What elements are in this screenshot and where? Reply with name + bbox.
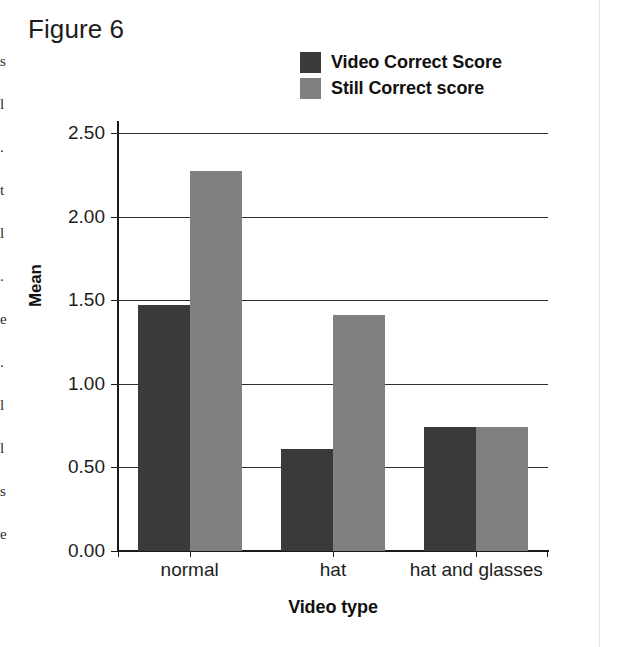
square-swatch-icon: [300, 52, 321, 73]
y-axis-tick-mark: [111, 217, 118, 218]
y-axis-tick-mark: [111, 384, 118, 385]
y-axis-tick-label: 0.00: [68, 540, 105, 562]
square-swatch-icon: [300, 78, 321, 99]
y-axis-tick-label: 1.00: [68, 373, 105, 395]
legend-item-video-correct-score: Video Correct Score: [300, 52, 502, 73]
x-axis-title: Video type: [118, 597, 548, 618]
bar: [138, 305, 190, 551]
y-axis-tick-label: 2.00: [68, 206, 105, 228]
y-axis-tick-mark: [111, 133, 118, 134]
scan-artifact-right-gutter: [599, 0, 600, 647]
y-axis-tick-label: 0.50: [68, 456, 105, 478]
bar: [190, 171, 242, 551]
x-axis-tick-mark: [190, 551, 191, 557]
y-axis-tick-mark: [111, 467, 118, 468]
y-axis-tick-mark: [111, 300, 118, 301]
bar: [424, 427, 476, 551]
y-axis-tick-mark: [111, 551, 118, 552]
legend-item-label: Still Correct score: [331, 78, 484, 99]
bar: [476, 427, 528, 551]
figure-page: s l . t l . e . l l s e Figure 6 Video C…: [0, 0, 617, 647]
y-axis-tick-label: 1.50: [68, 289, 105, 311]
bars-group: [118, 133, 548, 551]
legend-item-label: Video Correct Score: [331, 52, 502, 73]
x-axis-tick-mark: [333, 551, 334, 557]
x-axis-category-label: normal: [161, 559, 219, 581]
x-axis-boundary-tick: [547, 551, 548, 557]
plot-area: 0.000.501.001.502.002.50 normalhathat an…: [118, 133, 548, 551]
bar: [333, 315, 385, 551]
y-axis-title: Mean: [26, 264, 46, 307]
scan-artifact-left-text: s l . t l . e . l l s e: [0, 40, 16, 630]
x-axis-category-label: hat and glasses: [410, 559, 543, 581]
legend-item-still-correct-score: Still Correct score: [300, 78, 502, 99]
x-axis-boundary-tick: [118, 551, 119, 557]
x-axis-category-label: hat: [320, 559, 346, 581]
y-axis-tick-label: 2.50: [68, 122, 105, 144]
chart-legend: Video Correct Score Still Correct score: [300, 52, 502, 99]
x-axis-tick-mark: [476, 551, 477, 557]
figure-title: Figure 6: [28, 14, 124, 45]
bar: [281, 449, 333, 551]
